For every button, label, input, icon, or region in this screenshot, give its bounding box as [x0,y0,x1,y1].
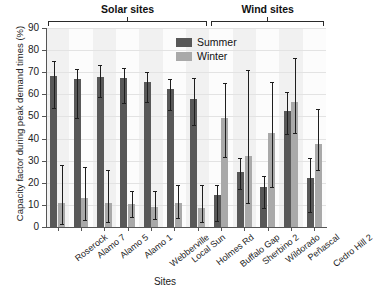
error-cap-upper [293,58,297,59]
legend-swatch-summer [176,38,192,47]
error-cap-lower [60,224,64,225]
x-tick [244,228,245,231]
error-cap-lower [223,157,227,158]
error-cap-lower [246,203,250,204]
error-bar-summer-6 [194,78,195,125]
error-bar-summer-8 [240,158,241,189]
error-cap-upper [98,65,102,66]
error-bar-summer-7 [217,185,218,221]
y-tick-label: 40 [6,134,39,144]
gridline [46,28,326,29]
error-cap-lower [168,110,172,111]
gridline [46,72,326,73]
x-tick [104,228,105,231]
y-tick [42,94,46,95]
error-bar-winter-1 [85,167,86,220]
gridline [46,94,326,95]
y-tick [42,72,46,73]
y-tick-label: 70 [6,67,39,77]
error-cap-lower [262,208,266,209]
error-cap-lower [145,102,149,103]
error-bar-summer-2 [100,65,101,97]
error-cap-upper [60,165,64,166]
error-cap-lower [52,108,56,109]
error-cap-upper [176,185,180,186]
error-bar-winter-9 [272,82,273,187]
legend-label: Summer [197,37,237,48]
legend-swatch-winter [176,52,192,61]
y-tick-label: 80 [6,45,39,55]
error-bar-winter-10 [295,58,296,134]
error-bar-winter-8 [248,70,249,203]
error-cap-lower [75,118,79,119]
y-tick [42,205,46,206]
error-cap-lower [308,212,312,213]
x-tick [314,228,315,231]
legend-item-winter[interactable]: Winter [176,50,237,62]
error-cap-upper [75,69,79,70]
y-tick-label: 60 [6,89,39,99]
error-bar-summer-4 [147,72,148,102]
y-tick-label: 20 [6,178,39,188]
x-tick [58,228,59,231]
error-bar-winter-0 [62,165,63,225]
y-tick-label: 50 [6,111,39,121]
error-cap-upper [200,185,204,186]
error-cap-upper [122,68,126,69]
y-tick-label: 10 [6,200,39,210]
error-cap-lower [122,103,126,104]
x-tick [268,228,269,231]
y-tick [42,161,46,162]
error-bar-winter-11 [318,109,319,169]
error-cap-lower [106,222,110,223]
error-cap-upper [145,72,149,73]
error-cap-upper [238,158,242,159]
x-axis-line [46,227,327,228]
error-cap-lower [98,97,102,98]
error-cap-lower [215,221,219,222]
error-cap-upper [83,167,87,168]
error-bar-winter-5 [178,185,179,218]
x-axis-label: Sites [0,276,330,287]
x-tick [291,228,292,231]
error-cap-upper [106,170,110,171]
x-tick [198,228,199,231]
error-cap-upper [168,79,172,80]
y-tick [42,116,46,117]
x-tick [174,228,175,231]
error-bar-winter-3 [132,191,133,217]
error-bar-summer-10 [287,92,288,134]
error-cap-upper [153,191,157,192]
error-cap-upper [192,78,196,79]
error-cap-upper [285,92,289,93]
y-tick-label: 0 [6,222,39,232]
legend-label: Winter [197,51,227,62]
y-tick [42,227,46,228]
error-bar-summer-9 [264,176,265,209]
x-tick [81,228,82,231]
error-bar-winter-6 [202,185,203,222]
error-cap-upper [223,83,227,84]
error-cap-lower [83,220,87,221]
x-tick [151,228,152,231]
y-tick [42,50,46,51]
group-bracket-solar-sites [48,17,207,26]
error-cap-lower [285,134,289,135]
y-tick-label: 30 [6,156,39,166]
group-bracket-wind-sites [211,17,324,26]
error-bar-summer-5 [170,79,171,110]
legend-item-summer[interactable]: Summer [176,36,237,48]
error-cap-lower [130,217,134,218]
error-cap-lower [316,170,320,171]
x-tick [221,228,222,231]
error-cap-lower [192,125,196,126]
error-cap-lower [238,189,242,190]
error-cap-upper [262,176,266,177]
y-tick-label: 90 [6,23,39,33]
error-bar-winter-7 [225,83,226,157]
error-cap-lower [153,219,157,220]
error-bar-summer-11 [310,158,311,212]
error-cap-upper [215,185,219,186]
error-cap-upper [52,61,56,62]
